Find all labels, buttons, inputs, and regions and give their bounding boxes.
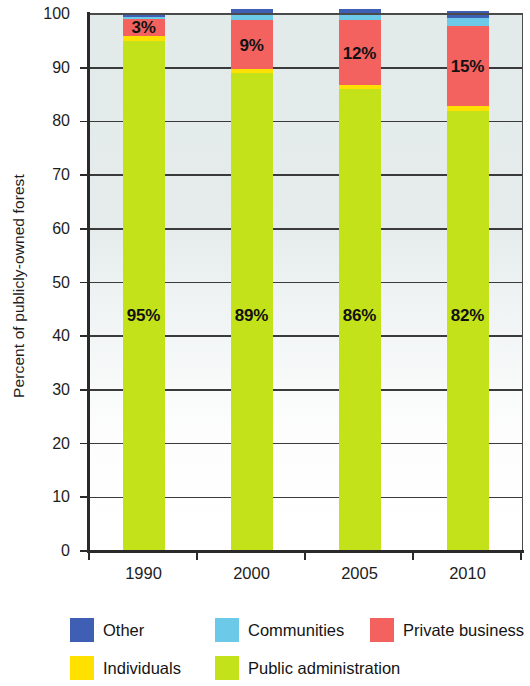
y-axis-tick-label: 70 xyxy=(24,167,70,183)
legend-item-other[interactable]: Other xyxy=(70,618,144,642)
bar-segment-communities xyxy=(447,18,489,26)
legend-item-private-business[interactable]: Private business xyxy=(370,618,524,642)
x-axis-tick-mark xyxy=(88,551,90,560)
y-axis-tick-label: 100 xyxy=(24,6,70,22)
bar-segment-public-administration xyxy=(123,41,165,551)
chart-legend: OtherCommunitiesPrivate businessIndividu… xyxy=(70,618,530,686)
legend-item-public-administration[interactable]: Public administration xyxy=(215,656,400,680)
bar-segment-private-business xyxy=(123,19,165,35)
legend-swatch xyxy=(215,618,239,642)
x-axis-tick-label: 2010 xyxy=(428,564,508,583)
stacked-bar-chart: Percent of publicly-owned forest 0102030… xyxy=(0,0,530,686)
plot-top-border xyxy=(89,13,523,15)
legend-label: Other xyxy=(103,621,144,640)
bar-segment-public-administration xyxy=(339,89,381,551)
bar-segment-public-administration xyxy=(447,111,489,551)
bar-segment-public-administration xyxy=(231,73,273,551)
x-axis-tick-label: 2005 xyxy=(320,564,400,583)
y-axis-tick-label: 0 xyxy=(24,543,70,559)
y-axis-tick-label: 30 xyxy=(24,382,70,398)
bar-2010 xyxy=(447,11,489,551)
bar-1990 xyxy=(123,14,165,551)
bar-2005 xyxy=(339,9,381,551)
legend-label: Individuals xyxy=(103,659,181,678)
bar-2000 xyxy=(231,9,273,551)
bar-segment-private-business xyxy=(339,20,381,84)
y-axis-tick-label: 50 xyxy=(24,275,70,291)
legend-label: Private business xyxy=(403,621,524,640)
y-axis-line xyxy=(87,12,90,553)
legend-swatch xyxy=(70,656,94,680)
plot-right-border xyxy=(522,13,524,552)
bar-group: 95%3%89%9%86%12%82%15% xyxy=(89,14,523,551)
y-axis-tick-label: 10 xyxy=(24,489,70,505)
legend-swatch xyxy=(370,618,394,642)
y-axis-tick-label: 60 xyxy=(24,221,70,237)
x-axis-tick-mark xyxy=(520,551,522,560)
y-axis-tick-label: 40 xyxy=(24,328,70,344)
legend-swatch xyxy=(215,656,239,680)
bar-segment-private-business xyxy=(447,26,489,107)
x-axis-tick-mark xyxy=(412,551,414,560)
y-axis-tick-label: 90 xyxy=(24,60,70,76)
x-axis-tick-mark xyxy=(304,551,306,560)
y-axis-tick-label: 80 xyxy=(24,113,70,129)
x-axis-tick-label: 1990 xyxy=(104,564,184,583)
legend-swatch xyxy=(70,618,94,642)
legend-item-communities[interactable]: Communities xyxy=(215,618,344,642)
x-axis-tick-label: 2000 xyxy=(212,564,292,583)
bar-segment-private-business xyxy=(231,20,273,68)
legend-item-individuals[interactable]: Individuals xyxy=(70,656,181,680)
legend-label: Public administration xyxy=(248,659,400,678)
legend-label: Communities xyxy=(248,621,344,640)
y-axis-tick-label: 20 xyxy=(24,436,70,452)
x-axis-tick-mark xyxy=(196,551,198,560)
